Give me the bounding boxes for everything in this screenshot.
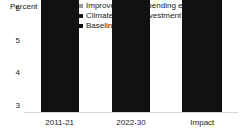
y-axis-tick-label: 5 (16, 35, 20, 44)
x-axis-tick-label: 2022-30 (116, 118, 145, 128)
y-axis-unit-label: Percent (10, 2, 38, 12)
bar-chart: Percent Improvement in spending efficien… (0, 0, 246, 136)
bar-segment (182, 0, 222, 112)
bar-segment (41, 0, 79, 112)
y-axis-tick-label: 6 (16, 3, 20, 12)
bar (182, 0, 222, 112)
x-axis-tick-label: 2011-21 (45, 118, 74, 128)
x-axis-tick-label: Impact (190, 118, 214, 128)
y-axis-tick-label: 3 (16, 100, 20, 109)
bar (41, 0, 79, 112)
bar-segment (112, 0, 150, 112)
plot-area: 3456 (24, 16, 238, 113)
y-axis-tick-label: 4 (16, 68, 20, 77)
bar (112, 0, 150, 112)
x-axis-baseline (24, 112, 238, 113)
legend-swatch-icon (79, 4, 83, 8)
